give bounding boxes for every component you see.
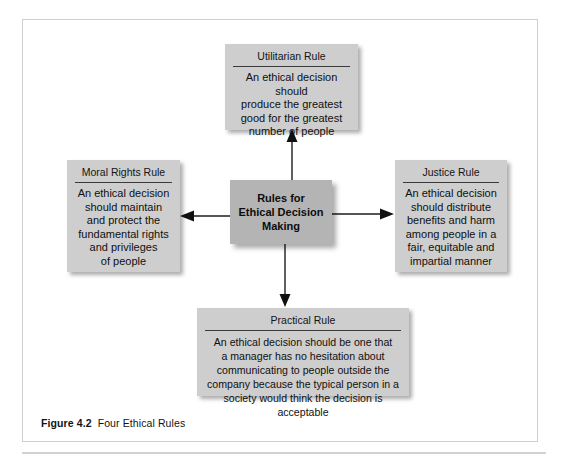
node-practical-title: Practical Rule bbox=[203, 313, 403, 330]
node-utilitarian-title: Utilitarian Rule bbox=[231, 49, 352, 66]
node-title-divider bbox=[403, 182, 499, 183]
arrow-to-justice-icon bbox=[332, 209, 394, 220]
diagram-canvas: Utilitarian Rule An ethical decision sho… bbox=[23, 20, 539, 443]
node-center-title: Rules for Ethical Decision Making bbox=[239, 191, 324, 233]
node-title-divider bbox=[233, 66, 350, 67]
arrow-to-practical-icon bbox=[280, 244, 291, 307]
node-moral-rights-rule: Moral Rights Rule An ethical decision sh… bbox=[67, 160, 180, 272]
node-practical-body: An ethical decision should be one that a… bbox=[203, 335, 403, 419]
figure-frame: Utilitarian Rule An ethical decision sho… bbox=[22, 19, 538, 442]
node-practical-rule: Practical Rule An ethical decision shoul… bbox=[197, 308, 409, 396]
page-bottom-rule bbox=[22, 452, 546, 454]
node-justice-title: Justice Rule bbox=[401, 165, 501, 182]
figure-caption-text: Four Ethical Rules bbox=[98, 417, 186, 429]
node-moral-rights-title: Moral Rights Rule bbox=[73, 165, 174, 182]
node-justice-body: An ethical decision should distribute be… bbox=[401, 187, 501, 269]
node-center-rules-for-ethical-decision-making: Rules for Ethical Decision Making bbox=[230, 180, 332, 244]
figure-caption-label: Figure 4.2 bbox=[41, 417, 92, 429]
node-utilitarian-body: An ethical decision should produce the g… bbox=[231, 71, 352, 139]
node-justice-rule: Justice Rule An ethical decision should … bbox=[395, 160, 507, 272]
figure-caption: Figure 4.2 Four Ethical Rules bbox=[41, 417, 185, 429]
arrow-to-moral-rights-icon bbox=[180, 211, 230, 222]
node-title-divider bbox=[205, 330, 401, 331]
node-moral-rights-body: An ethical decision should maintain and … bbox=[73, 187, 174, 269]
node-title-divider bbox=[75, 182, 172, 183]
node-utilitarian-rule: Utilitarian Rule An ethical decision sho… bbox=[225, 44, 358, 130]
